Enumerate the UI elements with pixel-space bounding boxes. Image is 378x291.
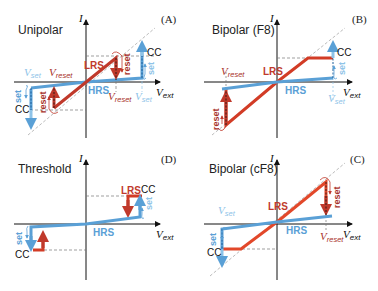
- lrs-label: LRS: [263, 66, 283, 77]
- panel-d-threshold: Threshold (D) I Vext LRS HRS CC CC set s…: [14, 152, 177, 280]
- lrs-label: LRS: [84, 60, 104, 71]
- reset-label-left: reset: [38, 91, 48, 113]
- panel-tag: (C): [350, 153, 365, 166]
- y-axis-label: I: [78, 152, 84, 164]
- hrs-label: HRS: [286, 225, 307, 236]
- y-axis-label: I: [78, 12, 84, 24]
- hrs-label: HRS: [93, 227, 114, 238]
- cc-label-top: CC: [141, 184, 155, 195]
- x-axis-label: Vext: [343, 86, 361, 100]
- panel-tag: (A): [161, 13, 177, 26]
- set-label-left: set: [13, 90, 23, 103]
- vset-label-left: Vset: [24, 66, 42, 80]
- panel-b-bipolar-f8: Bipolar (F8) (B) I Vext LRS HRS CC Vrese…: [204, 12, 367, 138]
- vreset-label-right: Vreset: [108, 90, 132, 104]
- set-label-left: set: [14, 232, 24, 245]
- cc-label: CC: [337, 47, 351, 58]
- vset-label: Vset: [218, 204, 236, 218]
- reset-label: reset: [211, 108, 221, 130]
- panel-title: Unipolar: [18, 23, 63, 37]
- set-label-right: set: [146, 62, 156, 75]
- cc-label-bottom: CC: [15, 249, 29, 260]
- panel-tag: (B): [352, 13, 367, 26]
- cc-label-top: CC: [147, 47, 161, 58]
- iv-curves-figure: Unipolar (A) I Vext LRS HRS CC C: [0, 0, 378, 291]
- panel-title: Bipolar (cF8): [209, 162, 278, 176]
- x-axis-label: Vext: [156, 228, 174, 242]
- panel-title: Bipolar (F8): [212, 23, 275, 37]
- set-label: set: [337, 62, 347, 75]
- vreset-label: Vreset: [221, 65, 245, 79]
- set-label-right: set: [144, 197, 154, 210]
- x-axis-label: Vext: [343, 228, 361, 242]
- vreset-label: Vreset: [320, 230, 344, 244]
- panel-tag: (D): [161, 153, 177, 166]
- reset-label-right: reset: [122, 53, 132, 75]
- curl-arrow-set-left: [26, 86, 28, 99]
- hrs-label: HRS: [88, 85, 109, 96]
- x-axis-label: Vext: [156, 86, 174, 100]
- reset-label: reset: [332, 186, 342, 208]
- curl-arrow-set-left: [27, 226, 28, 238]
- vset-label-right: Vset: [135, 90, 153, 104]
- panel-title: Threshold: [18, 162, 71, 176]
- set-label: set: [208, 233, 218, 246]
- lrs-label: LRS: [268, 201, 288, 212]
- cc-label: CC: [207, 247, 221, 258]
- vreset-label-left: Vreset: [49, 66, 73, 80]
- panel-a-unipolar: Unipolar (A) I Vext LRS HRS CC C: [13, 12, 177, 138]
- panel-c-bipolar-cf8: Bipolar (cF8) (C) I Vext LRS HRS CC Vset…: [204, 152, 365, 280]
- hrs-label: HRS: [285, 85, 306, 96]
- lrs-label: LRS: [121, 185, 141, 196]
- cc-label-bottom: CC: [15, 104, 29, 115]
